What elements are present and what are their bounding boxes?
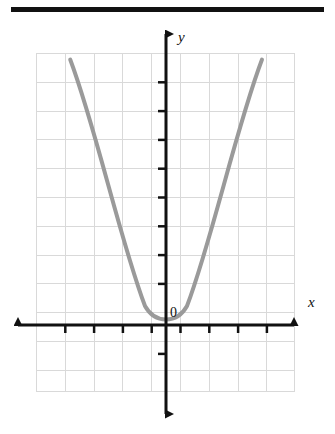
x-axis-label: x (308, 295, 315, 310)
coordinate-plane (0, 0, 335, 434)
origin-label: 0 (170, 306, 177, 320)
graph-figure: y x 0 (0, 0, 335, 434)
y-axis-label: y (178, 30, 185, 45)
